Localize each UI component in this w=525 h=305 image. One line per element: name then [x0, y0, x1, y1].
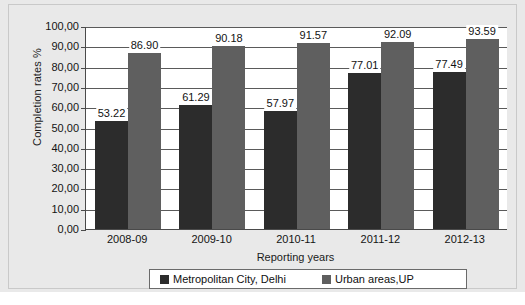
y-axis-tick-label: 30,00 — [13, 162, 79, 174]
bar: 77.49 — [433, 72, 466, 229]
bar-group: 77.4993.59 — [424, 27, 508, 229]
y-axis-tick-label: 100,00 — [13, 20, 79, 32]
figure-frame: Completion rates % 53.2286.9061.2990.185… — [8, 4, 517, 289]
bar: 53.22 — [95, 121, 128, 229]
y-axis-tick-label: 0,00 — [13, 223, 79, 235]
bar: 91.57 — [297, 43, 330, 229]
y-axis-tick-label: 70,00 — [13, 81, 79, 93]
bar-value-label: 90.18 — [213, 32, 245, 44]
bar-value-label: 61.29 — [180, 91, 212, 103]
plot-area: 53.2286.9061.2990.1857.9791.5777.0192.09… — [85, 27, 507, 230]
x-axis-title: Reporting years — [85, 251, 506, 263]
bar: 93.59 — [466, 39, 499, 229]
legend-label: Metropolitan City, Delhi — [173, 273, 286, 285]
bar-value-label: 77.01 — [349, 59, 381, 71]
x-axis-tick-label: 2012-13 — [423, 233, 507, 245]
bar: 90.18 — [212, 46, 245, 229]
bar: 86.90 — [128, 53, 161, 229]
y-axis-tick-mark — [81, 230, 86, 231]
legend-swatch-icon — [160, 275, 169, 284]
y-axis-tick-label: 60,00 — [13, 101, 79, 113]
bars-layer: 53.2286.9061.2990.1857.9791.5777.0192.09… — [86, 27, 507, 229]
y-axis-tick-label: 80,00 — [13, 61, 79, 73]
bar: 77.01 — [348, 73, 381, 229]
y-axis-tick-label: 20,00 — [13, 182, 79, 194]
bar-group: 61.2990.18 — [170, 27, 254, 229]
bar-value-label: 53.22 — [96, 107, 128, 119]
x-axis-tick-label: 2009-10 — [169, 233, 253, 245]
bar-value-label: 93.59 — [466, 25, 498, 37]
y-axis-tick-label: 10,00 — [13, 203, 79, 215]
bar-group: 57.9791.57 — [255, 27, 339, 229]
legend-label: Urban areas,UP — [335, 273, 414, 285]
bar-value-label: 86.90 — [129, 39, 161, 51]
bar-value-label: 77.49 — [433, 58, 465, 70]
bar-value-label: 57.97 — [265, 97, 297, 109]
bar: 92.09 — [381, 42, 414, 229]
y-axis-tick-label: 90,00 — [13, 40, 79, 52]
bar: 61.29 — [179, 105, 212, 229]
x-axis-tick-label: 2008-09 — [85, 233, 169, 245]
bar-group: 53.2286.90 — [86, 27, 170, 229]
bar: 57.97 — [264, 111, 297, 229]
y-axis-tick-label: 40,00 — [13, 142, 79, 154]
legend-swatch-icon — [322, 275, 331, 284]
bar-value-label: 91.57 — [298, 29, 330, 41]
x-axis-tick-label: 2011-12 — [338, 233, 422, 245]
chart-legend: Metropolitan City, DelhiUrban areas,UP — [149, 269, 467, 289]
y-axis-tick-label: 50,00 — [13, 122, 79, 134]
bar-group: 77.0192.09 — [339, 27, 423, 229]
bar-value-label: 92.09 — [382, 28, 414, 40]
legend-entry: Urban areas,UP — [322, 273, 414, 285]
chart-figure: Completion rates % 53.2286.9061.2990.185… — [0, 0, 525, 292]
legend-entry: Metropolitan City, Delhi — [160, 273, 286, 285]
x-axis-tick-label: 2010-11 — [254, 233, 338, 245]
